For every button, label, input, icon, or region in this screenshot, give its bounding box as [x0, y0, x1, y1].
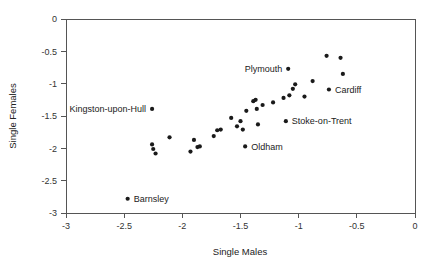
- x-tick-label: -1.5: [233, 221, 249, 231]
- y-tick-label: -2.5: [41, 176, 57, 186]
- point-label-kingston-upon-hull: Kingston-upon-Hull: [70, 104, 147, 114]
- data-point: [254, 98, 258, 102]
- data-point: [243, 144, 247, 148]
- data-point: [286, 67, 290, 71]
- y-tick-label: 0: [52, 14, 57, 24]
- data-point: [151, 147, 155, 151]
- y-tick-label: -0.5: [41, 47, 57, 57]
- point-label-oldham: Oldham: [251, 142, 283, 152]
- x-tick-label: 0: [412, 221, 417, 231]
- point-labels-group: BarnsleyKingston-upon-HullOldhamStoke-on…: [70, 64, 362, 204]
- axes-group: [66, 19, 415, 213]
- data-point: [256, 122, 260, 126]
- y-tick-label: -2: [49, 144, 57, 154]
- ticks-group: [61, 19, 415, 218]
- point-label-barnsley: Barnsley: [134, 194, 170, 204]
- data-point: [311, 79, 315, 83]
- data-point: [324, 54, 328, 58]
- data-point: [271, 100, 275, 104]
- data-point: [293, 82, 297, 86]
- data-point: [126, 197, 130, 201]
- data-point: [150, 107, 154, 111]
- x-axis-title: Single Males: [213, 246, 268, 257]
- x-tick-label: -1: [295, 221, 303, 231]
- data-point: [215, 128, 219, 132]
- scatter-chart-figure: -3-2.5-2-1.5-1-0.500-0.5-1-1.5-2-2.5-3 B…: [0, 0, 440, 269]
- data-point: [284, 119, 288, 123]
- data-point: [153, 151, 157, 155]
- y-tick-label: -1.5: [41, 111, 57, 121]
- data-point: [302, 95, 306, 99]
- x-tick-label: -2: [178, 221, 186, 231]
- data-point: [261, 103, 265, 107]
- data-point: [235, 124, 239, 128]
- y-axis-title: Single Females: [7, 83, 18, 149]
- point-label-cardiff: Cardiff: [335, 85, 362, 95]
- data-point: [327, 87, 331, 91]
- data-point: [192, 138, 196, 142]
- data-point: [167, 135, 171, 139]
- data-points-group: [126, 54, 345, 201]
- data-point: [229, 116, 233, 120]
- scatter-plot-svg: -3-2.5-2-1.5-1-0.500-0.5-1-1.5-2-2.5-3 B…: [0, 0, 440, 269]
- data-point: [212, 134, 216, 138]
- data-point: [219, 127, 223, 131]
- tick-labels-group: -3-2.5-2-1.5-1-0.500-0.5-1-1.5-2-2.5-3: [41, 14, 417, 231]
- x-tick-label: -0.5: [349, 221, 365, 231]
- data-point: [244, 109, 248, 113]
- data-point: [241, 127, 245, 131]
- x-tick-label: -2.5: [116, 221, 132, 231]
- y-tick-label: -1: [49, 79, 57, 89]
- y-tick-label: -3: [49, 208, 57, 218]
- data-point: [150, 142, 154, 146]
- point-label-stoke-on-trent: Stoke-on-Trent: [292, 116, 352, 126]
- x-tick-label: -3: [62, 221, 70, 231]
- data-point: [198, 144, 202, 148]
- data-point: [281, 96, 285, 100]
- data-point: [255, 107, 259, 111]
- data-point: [341, 72, 345, 76]
- data-point: [338, 56, 342, 60]
- point-label-plymouth: Plymouth: [245, 64, 283, 74]
- data-point: [291, 87, 295, 91]
- data-point: [287, 93, 291, 97]
- data-point: [188, 149, 192, 153]
- data-point: [238, 119, 242, 123]
